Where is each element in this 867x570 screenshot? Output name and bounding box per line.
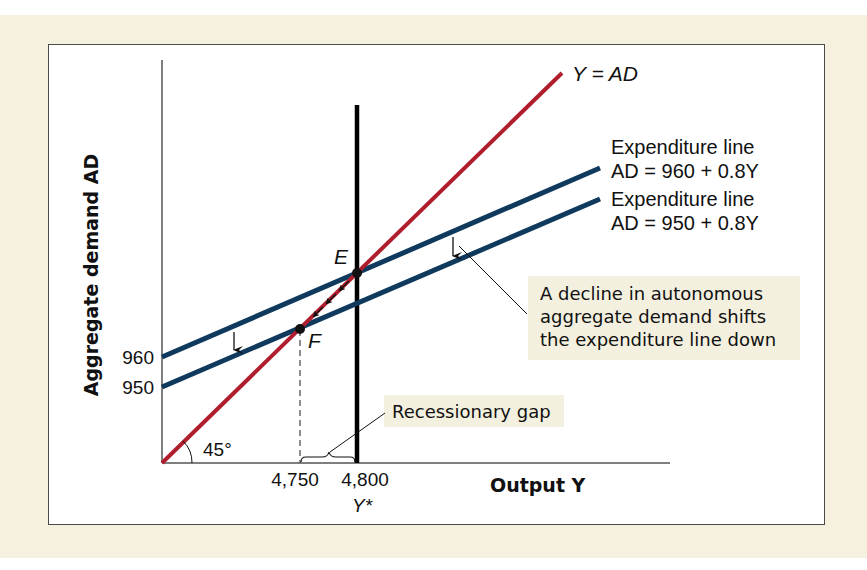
shift-callout-line3: the expenditure line down [540,329,776,350]
shift-callout-line2: aggregate demand shifts [540,306,766,327]
point-e-label: E [334,245,349,268]
identity-line-label: Y = AD [572,62,638,85]
expenditure-high-title: Expenditure line [611,136,754,158]
gap-brace [301,452,355,462]
point-e [352,268,362,278]
y-tick-960: 960 [122,347,154,368]
x-tick-4800: 4,800 [341,469,389,490]
x-tick-ystar: Y* [352,495,373,516]
point-f [295,324,305,334]
shift-callout-pointer [459,246,527,314]
y-axis-label: Aggregate demand AD [80,154,102,397]
point-f-label: F [308,329,322,352]
angle-label: 45° [203,439,232,460]
angle-arc [183,441,192,463]
expenditure-low-equation: AD = 950 + 0.8Y [611,212,759,234]
x-axis-label: Output Y [490,474,586,496]
x-tick-4750: 4,750 [271,469,319,490]
gap-callout-label: Recessionary gap [392,401,551,422]
expenditure-low-title: Expenditure line [611,188,754,210]
expenditure-high-equation: AD = 960 + 0.8Y [611,160,759,182]
shift-callout-line1: A decline in autonomous [540,283,763,304]
chart-svg: Y = AD Expenditure line AD = 960 + 0.8Y … [0,0,867,570]
y-tick-950: 950 [122,377,154,398]
